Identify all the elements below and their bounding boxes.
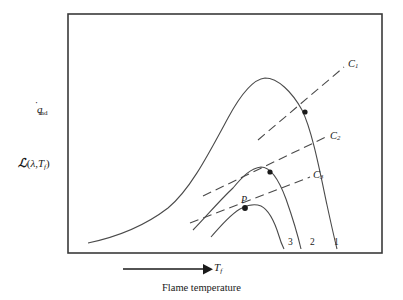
label-C3: C3 bbox=[313, 170, 323, 181]
C2-subscript: 2 bbox=[337, 134, 340, 141]
marker-c2-tangency bbox=[267, 169, 272, 174]
diagram-canvas bbox=[0, 0, 403, 300]
y-axis-label-qrad: q̇rad bbox=[37, 104, 47, 117]
marker-c1-tangency bbox=[302, 109, 307, 114]
C3-subscript: 3 bbox=[320, 173, 323, 180]
label-C2: C2 bbox=[330, 131, 340, 142]
C1-subscript: 1 bbox=[355, 62, 358, 69]
arrow-right-icon bbox=[203, 264, 213, 274]
curve-label-3: 3 bbox=[288, 238, 293, 248]
curve-label-2: 2 bbox=[310, 238, 315, 248]
y-axis-label-spectral-emissive: ℒ(λ,Tf) bbox=[18, 157, 50, 171]
figure-caption: Flame temperature bbox=[0, 282, 403, 293]
paren-close: ) bbox=[46, 157, 50, 169]
line-C2 bbox=[203, 137, 326, 196]
figure-container: q̇rad ℒ(λ,Tf) C1 C2 C3 P 1 2 3 Tf Flame … bbox=[0, 0, 403, 300]
C2-letter: C bbox=[330, 130, 337, 141]
qrad-subscript: rad bbox=[39, 109, 48, 117]
x-axis-subscript-f: f bbox=[220, 267, 222, 275]
marker-point-p bbox=[242, 205, 248, 211]
curve-label-1: 1 bbox=[334, 238, 339, 248]
C3-letter: C bbox=[313, 169, 320, 180]
curve-1-path bbox=[88, 78, 337, 249]
script-L-symbol: ℒ bbox=[18, 156, 27, 170]
x-axis-label-Tf: Tf bbox=[214, 262, 222, 275]
C1-letter: C bbox=[348, 58, 355, 69]
label-C1: C1 bbox=[348, 59, 358, 70]
label-point-P: P bbox=[241, 195, 247, 205]
